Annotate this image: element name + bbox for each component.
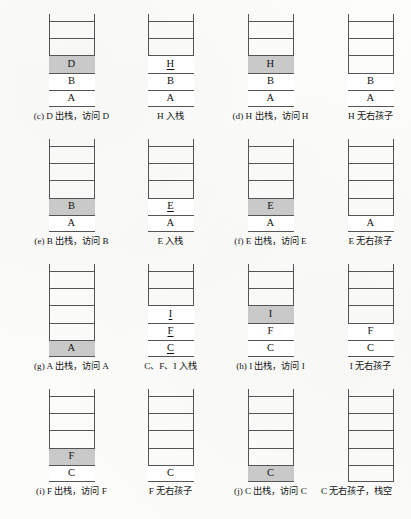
panel-caption: C、F、I 入栈: [119, 361, 222, 372]
stack-cells: IFC: [248, 271, 294, 357]
stack-cell: [148, 430, 194, 447]
stack-cell: [348, 396, 394, 413]
stack-cell-label: A: [367, 218, 375, 229]
stack-cell: [49, 21, 95, 38]
stack-cell-label: B: [68, 76, 75, 87]
panel-caption: H 无右孩子: [319, 111, 411, 122]
stack-cell: C: [348, 340, 394, 357]
stack-cell: [348, 146, 394, 163]
panel-caption: (c) D 出栈，访问 D: [20, 111, 123, 122]
panel-caption: I 无右孩子: [319, 361, 411, 372]
stack-panel: CF 无右孩子: [119, 389, 222, 497]
stack-cell: [148, 21, 194, 38]
stack-cell: [49, 146, 95, 163]
panel-caption: (h) I 出栈，访问 I: [219, 361, 322, 372]
stack-cell: [49, 323, 95, 340]
panel-caption: (d) H 出栈，访问 H: [219, 111, 322, 122]
stack-cell-label: B: [267, 76, 274, 87]
stack-cell: [148, 396, 194, 413]
stack-cell: I: [248, 305, 294, 322]
stack-cell: [49, 163, 95, 180]
stack-cell: B: [248, 73, 294, 90]
stack-panel: EAE 入栈: [119, 139, 222, 247]
stack-cell: B: [49, 198, 95, 215]
stack-cell: [49, 305, 95, 322]
stack-cells: FC: [49, 396, 95, 482]
stack-cell: E: [248, 198, 294, 215]
stack-cell-label: H: [167, 59, 175, 70]
stack-cell: [49, 288, 95, 305]
stack-cell-label: H: [267, 59, 275, 70]
stack-container: C: [148, 389, 194, 482]
stack-cell-label: F: [167, 326, 173, 337]
stack-cells: FC: [348, 271, 394, 357]
stack-cell: [49, 396, 95, 413]
stack-cell: [248, 288, 294, 305]
stack-cell-label: A: [167, 93, 175, 104]
stack-cell-label: B: [167, 76, 174, 87]
stack-cell: [348, 55, 394, 72]
stack-cell-label: C: [167, 343, 174, 354]
stack-panel: DBA(c) D 出栈，访问 D: [20, 14, 123, 122]
stack-cell: [348, 305, 394, 322]
stack-cell: [348, 163, 394, 180]
stack-container: [348, 389, 394, 482]
stack-cell: B: [49, 73, 95, 90]
stack-cell: [49, 38, 95, 55]
stack-cell-label: A: [267, 93, 275, 104]
stack-cell: [348, 448, 394, 465]
stack-cell: [348, 413, 394, 430]
stack-cell-label: A: [267, 218, 275, 229]
stack-cells: EA: [148, 146, 194, 232]
stack-panel: A(g) A 出栈，访问 A: [20, 264, 123, 372]
stack-cell: [348, 21, 394, 38]
stack-panel: FCI 无右孩子: [319, 264, 411, 372]
stack-cell: [248, 146, 294, 163]
stack-cell: [248, 396, 294, 413]
stack-cell: [49, 413, 95, 430]
stack-cell: [49, 430, 95, 447]
stack-container: DBA: [49, 14, 95, 107]
stack-cell: [148, 288, 194, 305]
stack-container: FC: [348, 264, 394, 357]
panel-caption: F 无右孩子: [119, 486, 222, 497]
stack-panel: IFCC、F、I 入栈: [119, 264, 222, 372]
stack-cell: [248, 38, 294, 55]
stack-cell-label: F: [68, 451, 74, 462]
stack-panel: AE 无右孩子: [319, 139, 411, 247]
stack-cell-label: A: [68, 218, 76, 229]
stack-cell: F: [248, 323, 294, 340]
stack-cells: HBA: [248, 21, 294, 107]
stack-cell-label: C: [167, 468, 174, 479]
stack-cell: [148, 413, 194, 430]
stack-container: A: [348, 139, 394, 232]
panel-caption: C 无右孩子，栈空: [319, 486, 411, 497]
stack-cells: BA: [348, 21, 394, 107]
stack-cell-label: F: [267, 326, 273, 337]
stack-panel: HBAH 入栈: [119, 14, 222, 122]
stack-container: EA: [248, 139, 294, 232]
stack-cell: A: [248, 215, 294, 232]
stack-panel: FC(i) F 出栈，访问 F: [20, 389, 123, 497]
stack-container: IFC: [148, 264, 194, 357]
stack-container: A: [49, 264, 95, 357]
stack-cells: BA: [49, 146, 95, 232]
stack-cell: A: [148, 90, 194, 107]
stack-cell: C: [248, 465, 294, 482]
stack-cell-label: A: [367, 93, 375, 104]
stack-cell-label: I: [169, 309, 173, 320]
stack-cell: I: [148, 305, 194, 322]
stack-cell: F: [49, 448, 95, 465]
stack-cell: [248, 21, 294, 38]
stack-cell-label: C: [267, 468, 274, 479]
stack-container: C: [248, 389, 294, 482]
stack-container: IFC: [248, 264, 294, 357]
stack-cell-label: B: [68, 201, 75, 212]
stack-container: HBA: [248, 14, 294, 107]
panel-caption: E 入栈: [119, 236, 222, 247]
stack-cell-label: F: [367, 326, 373, 337]
stack-cell: [49, 271, 95, 288]
stack-panel: C(j) C 出栈，访问 C: [219, 389, 322, 497]
stack-cell: [148, 163, 194, 180]
stack-cell-label: D: [68, 59, 76, 70]
